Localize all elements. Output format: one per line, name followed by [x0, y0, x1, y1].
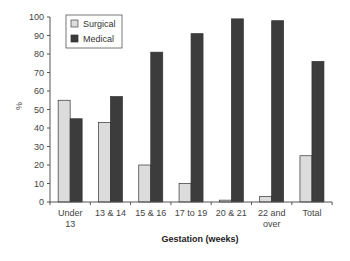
bar-surgical	[260, 196, 272, 202]
legend-swatch-medical	[71, 35, 78, 42]
bar-medical	[191, 34, 203, 202]
legend-label-surgical: Surgical	[83, 19, 116, 29]
y-tick-label: 100	[29, 12, 44, 22]
bar-surgical	[98, 122, 110, 202]
x-category-label: 17 to 19	[175, 208, 208, 218]
y-axis: 0102030405060708090100	[29, 12, 50, 207]
x-category-label: 15 & 16	[135, 208, 166, 218]
x-category-label: over	[263, 219, 281, 229]
y-tick-label: 10	[34, 179, 44, 189]
x-category-label: 13 & 14	[95, 208, 126, 218]
bar-surgical	[139, 165, 151, 202]
x-category-label: Under	[58, 208, 83, 218]
bar-medical	[231, 19, 243, 202]
bar-surgical	[179, 184, 191, 203]
y-tick-label: 20	[34, 160, 44, 170]
x-axis: Under1313 & 1415 & 1617 to 1920 & 2122 a…	[50, 202, 332, 229]
y-tick-label: 60	[34, 86, 44, 96]
x-axis-label: Gestation (weeks)	[161, 234, 238, 244]
bar-surgical	[300, 156, 312, 202]
x-category-label: 13	[65, 219, 75, 229]
y-tick-label: 70	[34, 68, 44, 78]
legend: Surgical Medical	[66, 15, 122, 48]
bar-medical	[151, 52, 163, 202]
y-axis-label: %	[14, 102, 24, 110]
bar-medical	[110, 97, 122, 202]
x-category-label: 22 and	[258, 208, 286, 218]
legend-label-medical: Medical	[83, 34, 114, 44]
bar-surgical	[58, 100, 70, 202]
y-tick-label: 40	[34, 123, 44, 133]
x-category-label: 20 & 21	[216, 208, 247, 218]
bar-medical	[70, 119, 82, 202]
bar-chart: 0102030405060708090100 Under1313 & 1415 …	[0, 0, 350, 261]
y-tick-label: 80	[34, 49, 44, 59]
bar-medical	[312, 61, 324, 202]
x-category-label: Total	[302, 208, 321, 218]
y-tick-label: 90	[34, 31, 44, 41]
bar-medical	[272, 21, 284, 202]
legend-swatch-surgical	[71, 20, 78, 27]
y-tick-label: 50	[34, 105, 44, 115]
y-tick-label: 30	[34, 142, 44, 152]
y-tick-label: 0	[39, 197, 44, 207]
